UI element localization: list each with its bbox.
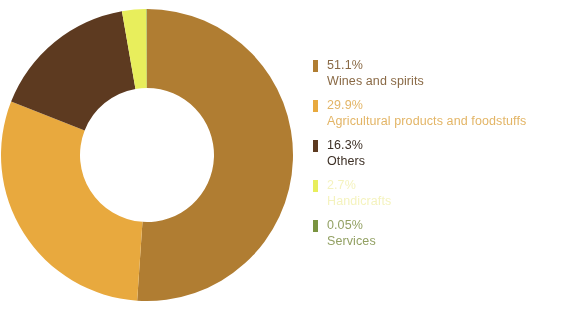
legend-item-percent: 16.3% [327, 138, 564, 153]
donut-slice[interactable] [1, 102, 142, 301]
legend-item[interactable]: 16.3%Others [313, 138, 564, 169]
legend-item-percent: 0.05% [327, 218, 564, 233]
legend-item-label: Wines and spirits [327, 73, 564, 89]
legend-item-percent: 51.1% [327, 58, 564, 73]
legend-color-swatch [313, 100, 318, 112]
legend-color-swatch [313, 60, 318, 72]
donut-chart-graphic [0, 0, 296, 309]
legend-item-percent: 2.7% [327, 178, 564, 193]
donut-slice-group [1, 9, 293, 301]
chart-legend: 51.1%Wines and spirits29.9%Agricultural … [313, 58, 564, 249]
legend-item[interactable]: 29.9%Agricultural products and foodstuff… [313, 98, 564, 129]
legend-item[interactable]: 0.05%Services [313, 218, 564, 249]
donut-slice[interactable] [137, 9, 293, 301]
donut-chart-figure: 51.1%Wines and spirits29.9%Agricultural … [0, 0, 564, 309]
donut-svg [0, 0, 296, 309]
legend-color-swatch [313, 220, 318, 232]
legend-item-label: Others [327, 153, 564, 169]
legend-color-swatch [313, 180, 318, 192]
legend-item-label: Handicrafts [327, 193, 564, 209]
legend-color-swatch [313, 140, 318, 152]
legend-item-percent: 29.9% [327, 98, 564, 113]
legend-item-label: Services [327, 233, 564, 249]
legend-item[interactable]: 2.7%Handicrafts [313, 178, 564, 209]
legend-item-label: Agricultural products and foodstuffs [327, 113, 564, 129]
legend-item[interactable]: 51.1%Wines and spirits [313, 58, 564, 89]
